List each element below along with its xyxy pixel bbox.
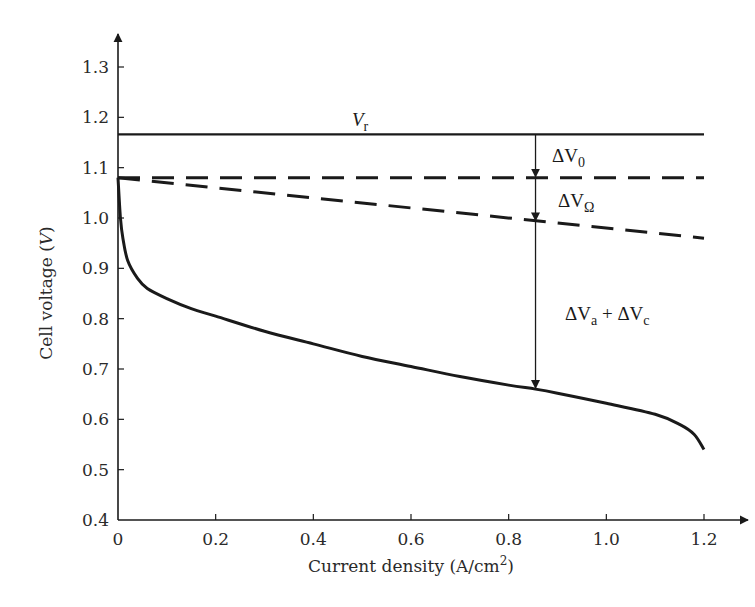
annotation-delta-v-ohm: ΔVΩ [558,190,594,215]
x-tick-label: 0.8 [495,529,522,549]
x-axis-title: Current density (A/cm2) [308,554,514,576]
series-line-2 [118,178,704,238]
x-tick-label: 0 [113,529,124,549]
data-series [118,134,704,449]
y-tick-label: 1.1 [82,158,109,178]
y-tick-label: 0.8 [82,309,109,329]
x-tick-label: 0.4 [300,529,327,549]
x-tick-label: 0.6 [397,529,424,549]
x-tick-label: 0.2 [202,529,229,549]
y-tick-label: 0.7 [82,359,109,379]
annotation-activation-losses: ΔVa + ΔVc [565,303,650,328]
x-tick-label: 1.0 [593,529,620,549]
y-tick-label: 0.5 [82,460,109,480]
polarization-chart: 00.20.40.60.81.01.20.40.50.60.70.80.91.0… [0,0,755,607]
y-tick-label: 0.9 [82,258,109,278]
y-axis-title: Cell voltage (V) [36,226,56,360]
annotation-vr: Vr [352,109,369,134]
y-tick-label: 1.0 [82,208,109,228]
y-tick-label: 1.3 [82,57,109,77]
axes [118,34,748,520]
y-tick-label: 0.6 [82,409,109,429]
x-tick-label: 1.2 [690,529,717,549]
y-tick-label: 0.4 [82,510,109,530]
y-tick-label: 1.2 [82,107,109,127]
annotation-delta-v0: ΔV0 [552,145,585,170]
